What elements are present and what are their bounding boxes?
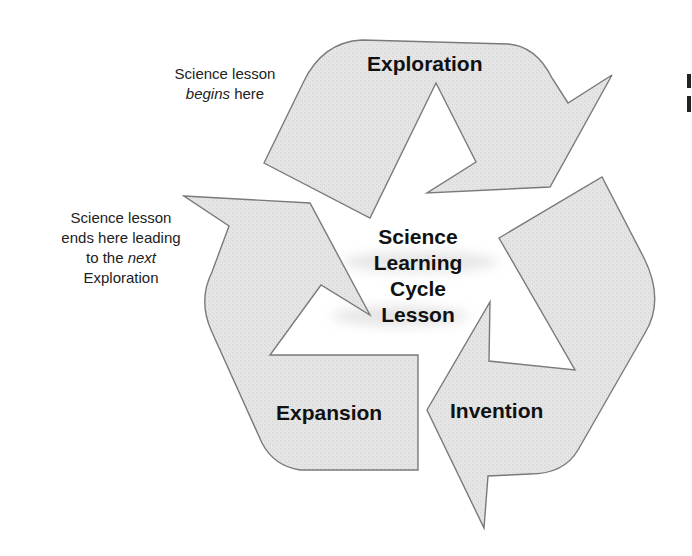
cropped-glyph-bottom bbox=[687, 96, 691, 112]
center-title-line-2: Learning bbox=[348, 250, 488, 276]
annotation-begin-emphasis: begins bbox=[186, 85, 230, 102]
cropped-text-fragment bbox=[686, 72, 692, 116]
annotation-end-emphasis: next bbox=[128, 249, 156, 266]
cropped-glyph-top bbox=[687, 74, 691, 88]
stage-label-invention: Invention bbox=[450, 400, 543, 421]
annotation-begin-line-1: Science lesson bbox=[160, 64, 290, 84]
annotation-end-line-4: Exploration bbox=[28, 268, 214, 288]
annotation-end-line-3: to the next bbox=[28, 248, 214, 268]
center-title-line-4: Lesson bbox=[348, 302, 488, 328]
annotation-end-line-2: ends here leading bbox=[28, 228, 214, 248]
center-title-line-1: Science bbox=[348, 224, 488, 250]
annotation-begin-rest: here bbox=[230, 85, 264, 102]
annotation-lesson-ends: Science lesson ends here leading to the … bbox=[28, 208, 214, 288]
annotation-lesson-begins: Science lesson begins here bbox=[160, 64, 290, 104]
stage-label-exploration: Exploration bbox=[367, 53, 483, 74]
annotation-begin-line-2: begins here bbox=[160, 84, 290, 104]
annotation-end-line-1: Science lesson bbox=[28, 208, 214, 228]
annotation-end-pre: to the bbox=[86, 249, 128, 266]
stage-label-expansion: Expansion bbox=[276, 402, 382, 423]
center-title: Science Learning Cycle Lesson bbox=[348, 224, 488, 328]
center-title-line-3: Cycle bbox=[348, 276, 488, 302]
